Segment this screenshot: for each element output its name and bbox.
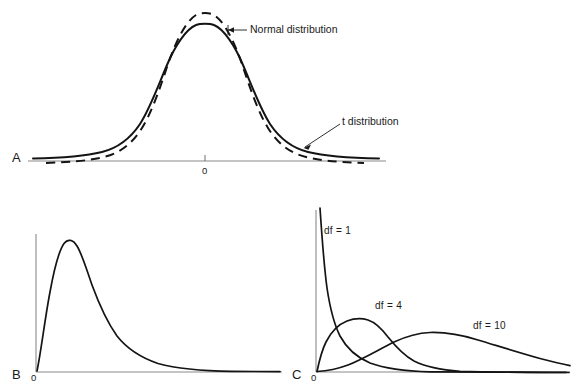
panel-b-zero-label: 0: [31, 373, 36, 383]
curve-chi-square-df10: [317, 332, 570, 371]
curve-label-df-4: df = 4: [375, 301, 402, 311]
normal-distribution-label: Normal distribution: [250, 24, 338, 35]
panel-a-graphic: [28, 13, 386, 163]
distributions-figure: A 0 Normal distribution t distribution B…: [0, 0, 580, 392]
panel-a-zero-label: 0: [202, 166, 207, 176]
curve-label-df-10: df = 10: [473, 321, 506, 331]
panel-b-graphic: [36, 234, 282, 372]
curve-f-distribution: [37, 240, 280, 371]
curve-t-distribution: [33, 24, 379, 159]
curve-chi-square-df1: [320, 208, 566, 372]
panel-c-letter: C: [292, 368, 302, 381]
curve-normal-distribution: [46, 13, 364, 163]
panel-c-graphic: [316, 208, 570, 373]
curve-chi-square-df4: [317, 319, 569, 373]
panel-a-letter: A: [12, 151, 21, 164]
t-distribution-leader: [305, 124, 340, 147]
panel-c-zero-label: 0: [311, 373, 316, 383]
t-distribution-label: t distribution: [342, 116, 399, 127]
panel-b-letter: B: [12, 368, 21, 381]
curve-label-df-1: df = 1: [324, 226, 351, 236]
figure-canvas: [0, 0, 580, 392]
